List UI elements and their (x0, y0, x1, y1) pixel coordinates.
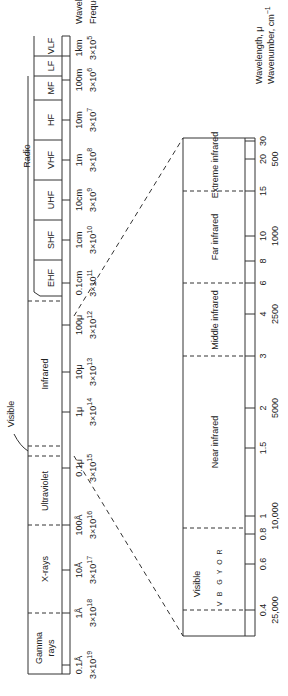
band-vlf: VLF (46, 37, 56, 54)
detail-tick-wl: 0.6 (258, 558, 268, 571)
detail-tick-wl: 8 (258, 258, 268, 263)
detail-tick-wl: 0.4 (258, 604, 268, 617)
detail-tick-wn: 500 (270, 151, 280, 166)
spectrum-svg: Gamma rays X-rays Ultraviolet Visible In… (0, 0, 288, 696)
tick-freq: 3×1017 (86, 556, 98, 584)
detail-tick-wl: 0.8 (258, 528, 268, 541)
detail-extreme-ir: Extreme infrared (210, 132, 220, 199)
detail-tick-wl: 3 (258, 353, 268, 358)
region-radio: Radio (22, 144, 32, 168)
tick-freq: 3×1015 (86, 454, 98, 482)
tick-freq: 3×1010 (86, 226, 98, 254)
tick-wl: 10Å (74, 562, 84, 578)
tick-wl: 0.1Å (74, 656, 84, 675)
tick-wl: 1μ (74, 407, 84, 417)
detail-tick-wn: 2500 (270, 304, 280, 324)
tick-wl: 10cm (74, 189, 84, 211)
detail-tick-wl: 4 (258, 311, 268, 316)
tick-wl: 0.1μ (74, 459, 84, 477)
region-xrays: X-rays (40, 556, 50, 583)
tick-freq: 3×1013 (86, 358, 98, 386)
region-gamma: Gamma (34, 632, 44, 664)
band-vhf: VHF (46, 150, 56, 169)
axis-label-frequency: Frequency, Hz (88, 0, 98, 24)
detail-tick-wl: 30 (258, 136, 268, 146)
tick-wl: 100Å (74, 514, 84, 535)
band-shf: SHF (46, 230, 56, 249)
tick-freq: 3×107 (86, 108, 98, 132)
tick-wl: 1Å (74, 607, 84, 618)
detail-tick-wl: 1 (258, 513, 268, 518)
detail-tick-wn: 5000 (270, 398, 280, 418)
tick-wl: 1m (74, 154, 84, 167)
visible-colors: V B G Y O R (216, 549, 223, 606)
detail-far-ir: Far infrared (210, 214, 220, 261)
band-uhf: UHF (46, 190, 56, 209)
detail-near-ir: Near infrared (210, 416, 220, 469)
detail-axis-wavelength: Wavelength, μ (254, 27, 264, 84)
band-mf: MF (46, 81, 56, 94)
tick-freq: 3×1012 (86, 311, 98, 339)
tick-wl: 1cm (74, 231, 84, 248)
detail-tick-wl: 2 (258, 405, 268, 410)
tick-freq: 3×1014 (86, 398, 98, 426)
tick-freq: 3×1018 (86, 599, 98, 627)
detail-tick-wn: 10,000 (270, 502, 280, 530)
tick-wl: 100μ (74, 315, 84, 335)
svg-text:O: O (216, 559, 223, 565)
detail-visible: Visible (192, 571, 202, 597)
spectrum-diagram: Gamma rays X-rays Ultraviolet Visible In… (0, 0, 288, 696)
tick-freq: 3×1019 (86, 651, 98, 679)
region-gamma-2: rays (46, 639, 56, 657)
tick-freq: 3×1016 (86, 511, 98, 539)
band-ehf: EHF (46, 268, 56, 287)
tick-wl: 0.1cm (74, 271, 84, 296)
band-lf: LF (46, 60, 56, 71)
detail-tick-wn: 1000 (270, 226, 280, 246)
axis-label-wavelength: Wavelength (74, 0, 84, 24)
tick-wl: 10m (74, 111, 84, 129)
tick-wl: 100m (74, 69, 84, 92)
region-infrared: Infrared (40, 358, 50, 389)
band-hf: HF (46, 114, 56, 126)
detail-tick-wl: 6 (258, 280, 268, 285)
region-ultraviolet: Ultraviolet (40, 470, 50, 511)
detail-tick-wl: 1.5 (258, 442, 268, 455)
tick-freq: 3×109 (86, 188, 98, 212)
svg-text:V: V (216, 601, 223, 606)
tick-wl: 10μ (74, 364, 84, 379)
tick-freq: 3×106 (86, 68, 98, 92)
svg-text:G: G (216, 579, 223, 584)
tick-freq: 3×108 (86, 148, 98, 172)
svg-text:R: R (216, 549, 223, 554)
svg-text:B: B (216, 591, 223, 596)
tick-freq: 3×1011 (86, 269, 98, 297)
detail-tick-wl: 15 (258, 186, 268, 196)
detail-axis-wavenumber: Wavenumber, cm−1 (264, 6, 276, 84)
detail-tick-wl: 20 (258, 154, 268, 164)
svg-text:Y: Y (216, 569, 223, 574)
region-visible: Visible (6, 401, 16, 427)
detail-middle-ir: Middle infrared (210, 290, 220, 350)
tick-freq: 3×105 (86, 36, 98, 60)
detail-tick-wn: 25,000 (270, 596, 280, 624)
tick-wl: 1km (74, 39, 84, 56)
detail-tick-wl: 10 (258, 231, 268, 241)
